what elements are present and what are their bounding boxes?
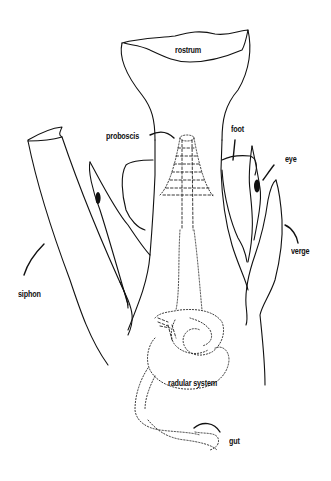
- left-eye-spot: [95, 192, 100, 204]
- foot-leader: [233, 140, 235, 160]
- anatomy-diagram: rostrum proboscis foot eye verge siphon …: [0, 0, 331, 481]
- left-tentacle: [89, 162, 150, 308]
- label-rostrum: rostrum: [175, 45, 201, 55]
- label-siphon: siphon: [18, 289, 41, 299]
- anatomy-drawing: [0, 0, 331, 481]
- verge-leader: [285, 225, 298, 243]
- label-proboscis: proboscis: [106, 131, 139, 141]
- verge-outline: [246, 180, 282, 385]
- proboscis-dotted: [160, 135, 213, 310]
- right-eye-spot: [254, 180, 260, 193]
- left-lobe: [122, 160, 153, 230]
- proboscis-leader: [150, 132, 174, 138]
- label-radular-system: radular system: [168, 378, 217, 388]
- label-gut: gut: [229, 436, 240, 446]
- label-foot: foot: [231, 124, 244, 134]
- label-eye: eye: [285, 154, 297, 164]
- gut-leader: [194, 423, 220, 432]
- eye-leader: [263, 165, 274, 180]
- label-verge: verge: [291, 246, 309, 256]
- siphon-leader: [24, 244, 44, 275]
- siphon-outline: [28, 127, 132, 365]
